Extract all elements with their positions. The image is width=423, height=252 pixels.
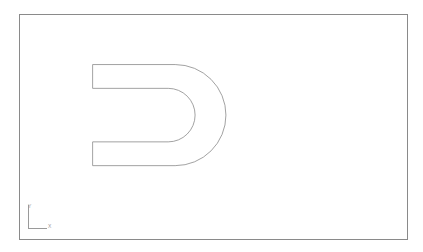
y-axis-label: Y [28,204,31,209]
slot-profile-outline[interactable] [93,65,226,166]
outer-boundary-path[interactable] [93,65,226,166]
drawing-viewport[interactable] [19,14,408,240]
drawing-canvas[interactable] [20,15,407,239]
inner-boundary-path[interactable] [93,88,195,142]
x-axis-label: X [48,224,51,229]
cad-application-window: Y X [0,0,423,252]
